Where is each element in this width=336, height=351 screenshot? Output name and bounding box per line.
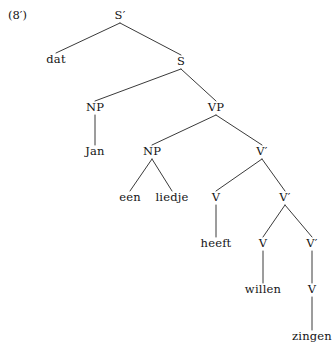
tree-edge xyxy=(216,159,262,191)
tree-node-jan: Jan xyxy=(85,146,104,158)
tree-node-v: V xyxy=(259,238,268,250)
tree-node-dat: dat xyxy=(46,54,65,66)
tree-node-willen: willen xyxy=(245,284,281,296)
tree-edge xyxy=(152,159,172,191)
tree-node-v: V xyxy=(212,192,221,204)
tree-edge xyxy=(181,69,216,101)
tree-node-np: NP xyxy=(143,146,161,158)
tree-node-liedje: liedje xyxy=(155,192,188,204)
tree-node-sbar: S′ xyxy=(115,10,126,22)
tree-node-vbar: V′ xyxy=(256,146,267,158)
tree-edge xyxy=(216,115,262,145)
tree-edge xyxy=(262,159,285,191)
syntax-tree-figure: (8′) S′datSNPJanVPNPeenliedjeV′VheeftV′V… xyxy=(0,0,336,351)
tree-node-een: een xyxy=(119,192,141,204)
tree-node-vbar: V′ xyxy=(279,192,290,204)
tree-node-zingen: zingen xyxy=(292,331,332,343)
tree-edge xyxy=(95,69,181,101)
tree-node-v: V xyxy=(308,284,317,296)
tree-node-s: S xyxy=(177,56,185,68)
tree-edge xyxy=(120,23,181,55)
tree-node-heeft: heeft xyxy=(201,238,232,250)
tree-edge xyxy=(56,23,120,53)
tree-edge xyxy=(263,205,285,237)
tree-node-np: NP xyxy=(86,102,104,114)
tree-edge xyxy=(130,159,152,191)
tree-edge xyxy=(152,115,216,145)
tree-node-vp: VP xyxy=(208,102,224,114)
tree-node-vbar: V′ xyxy=(306,238,317,250)
tree-edge xyxy=(285,205,312,237)
